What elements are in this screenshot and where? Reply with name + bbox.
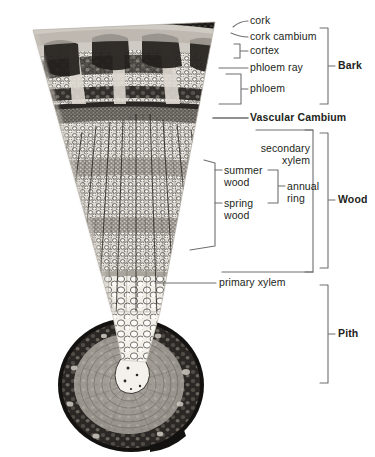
label-summer-wood-line1: summer [224,164,263,176]
label-secondary-xylem-line1: secondary [256,142,310,154]
label-cortex: cortex [250,45,279,57]
label-spring-wood-line1: spring [224,197,253,209]
stem-cross-section-image [0,0,375,457]
label-annual-ring-line2: ring [287,192,305,204]
label-phloem: phloem [250,83,285,95]
label-region-pith: Pith [338,328,358,340]
label-region-bark: Bark [338,60,362,72]
label-cork: cork [250,15,270,27]
label-phloem-ray: phloem ray [250,62,303,74]
label-summer-wood-line2: wood [224,176,250,188]
label-vascular-cambium: Vascular Cambium [250,112,346,124]
whole-stem-section [58,312,204,452]
label-cork-cambium: cork cambium [250,31,317,43]
label-secondary-xylem-line2: xylem [256,154,310,166]
label-spring-wood-line2: wood [224,209,250,221]
label-annual-ring-line1: annual [287,180,319,192]
figure-canvas: cork cork cambium cortex phloem ray phlo… [0,0,375,457]
label-region-wood: Wood [338,194,368,206]
label-primary-xylem: primary xylem [219,277,286,289]
